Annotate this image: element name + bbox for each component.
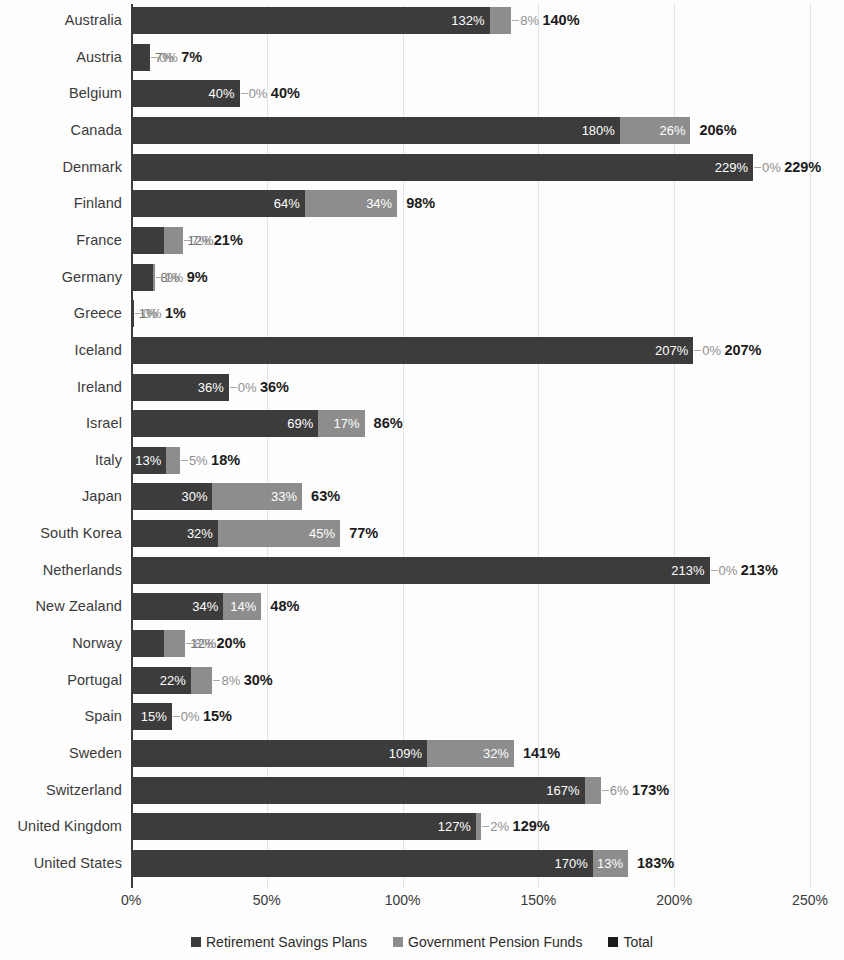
bar-segment-retirement-savings-plans[interactable]: 36%	[131, 374, 229, 401]
category-label: Japan	[0, 483, 122, 510]
label-leader-line	[151, 57, 158, 58]
bar-segment-retirement-savings-plans[interactable]: 213%	[131, 557, 710, 584]
bar-row: Spain15%0%15%	[0, 703, 844, 730]
bar-track: 8%1%9%	[131, 264, 155, 291]
segment-value-government-pension-funds: 32%	[483, 740, 509, 767]
bar-segment-retirement-savings-plans[interactable]	[131, 630, 164, 657]
category-label: Sweden	[0, 740, 122, 767]
bar-track: 69%17%86%	[131, 410, 365, 437]
x-axis-tick-label: 200%	[656, 892, 692, 908]
category-label: Portugal	[0, 667, 122, 694]
bar-segment-retirement-savings-plans[interactable]: 132%	[131, 7, 490, 34]
total-value-label: 213%	[741, 557, 778, 584]
bar-segment-retirement-savings-plans[interactable]: 229%	[131, 154, 753, 181]
total-value-label: 86%	[374, 410, 403, 437]
category-label: Ireland	[0, 374, 122, 401]
x-axis-tick-label: 100%	[385, 892, 421, 908]
legend-item[interactable]: Government Pension Funds	[393, 934, 582, 950]
legend-label: Government Pension Funds	[408, 934, 582, 950]
total-value-label: 48%	[270, 593, 299, 620]
category-label: United States	[0, 850, 122, 877]
bar-segment-government-pension-funds[interactable]: 17%	[318, 410, 364, 437]
label-leader-line	[694, 350, 701, 351]
label-leader-line	[184, 240, 191, 241]
bar-segment-government-pension-funds[interactable]	[490, 7, 512, 34]
label-leader-line	[230, 387, 237, 388]
bar-segment-government-pension-funds[interactable]	[164, 630, 186, 657]
category-label: France	[0, 227, 122, 254]
bar-segment-government-pension-funds[interactable]: 34%	[305, 190, 397, 217]
category-label: Finland	[0, 190, 122, 217]
legend-swatch-icon	[393, 937, 403, 947]
bar-segment-retirement-savings-plans[interactable]: 109%	[131, 740, 427, 767]
legend-label: Retirement Savings Plans	[206, 934, 367, 950]
bar-row: Ireland36%0%36%	[0, 374, 844, 401]
bar-segment-government-pension-funds[interactable]	[164, 227, 183, 254]
category-label: Switzerland	[0, 777, 122, 804]
bar-segment-retirement-savings-plans[interactable]: 40%	[131, 80, 240, 107]
bar-segment-government-pension-funds[interactable]: 45%	[218, 520, 340, 547]
segment-value-government-pension-funds: 0%	[238, 374, 257, 401]
total-value-label: 9%	[187, 264, 208, 291]
bar-segment-government-pension-funds[interactable]: 32%	[427, 740, 514, 767]
segment-value-government-pension-funds: 1%	[164, 264, 183, 291]
bar-row: Switzerland167%6%173%	[0, 777, 844, 804]
bar-track: 22%8%30%	[131, 667, 212, 694]
legend-item[interactable]: Retirement Savings Plans	[191, 934, 367, 950]
bar-track: 12%8%20%	[131, 630, 185, 657]
bar-segment-retirement-savings-plans[interactable]: 30%	[131, 483, 212, 510]
bar-segment-retirement-savings-plans[interactable]: 32%	[131, 520, 218, 547]
bar-segment-retirement-savings-plans[interactable]	[131, 300, 134, 327]
total-value-label: 129%	[513, 813, 550, 840]
segment-value-government-pension-funds: 0%	[159, 44, 178, 71]
bar-track: 180%26%206%	[131, 117, 690, 144]
category-label: New Zealand	[0, 593, 122, 620]
bar-segment-retirement-savings-plans[interactable]: 180%	[131, 117, 620, 144]
segment-value-government-pension-funds: 6%	[610, 777, 629, 804]
bar-segment-government-pension-funds[interactable]: 33%	[212, 483, 302, 510]
bar-segment-retirement-savings-plans[interactable]: 69%	[131, 410, 318, 437]
label-leader-line	[241, 93, 248, 94]
label-leader-line	[711, 570, 718, 571]
bar-segment-government-pension-funds[interactable]: 14%	[223, 593, 261, 620]
category-label: Denmark	[0, 154, 122, 181]
bar-segment-retirement-savings-plans[interactable]: 34%	[131, 593, 223, 620]
segment-value-government-pension-funds: 26%	[659, 117, 685, 144]
x-axis-tick-label: 50%	[253, 892, 281, 908]
bar-segment-government-pension-funds[interactable]	[476, 813, 481, 840]
bar-row: Germany8%1%9%	[0, 264, 844, 291]
bar-segment-government-pension-funds[interactable]: 13%	[593, 850, 628, 877]
segment-value-retirement-savings-plans: 229%	[715, 154, 748, 181]
bar-segment-retirement-savings-plans[interactable]	[131, 264, 153, 291]
bar-segment-government-pension-funds[interactable]	[153, 264, 156, 291]
category-label: Israel	[0, 410, 122, 437]
total-value-label: 140%	[542, 7, 579, 34]
bar-row: Australia132%8%140%	[0, 7, 844, 34]
bar-segment-retirement-savings-plans[interactable]: 13%	[131, 447, 166, 474]
bar-segment-retirement-savings-plans[interactable]: 64%	[131, 190, 305, 217]
total-value-label: 36%	[260, 374, 289, 401]
bar-segment-retirement-savings-plans[interactable]: 15%	[131, 703, 172, 730]
bar-segment-retirement-savings-plans[interactable]: 207%	[131, 337, 693, 364]
bar-segment-retirement-savings-plans[interactable]: 22%	[131, 667, 191, 694]
bar-segment-retirement-savings-plans[interactable]	[131, 44, 150, 71]
legend-item[interactable]: Total	[608, 934, 653, 950]
bar-row: Denmark229%0%229%	[0, 154, 844, 181]
bar-segment-retirement-savings-plans[interactable]: 167%	[131, 777, 585, 804]
bar-row: Sweden109%32%141%	[0, 740, 844, 767]
bar-segment-retirement-savings-plans[interactable]: 127%	[131, 813, 476, 840]
bar-segment-government-pension-funds[interactable]: 26%	[620, 117, 691, 144]
total-value-label: 141%	[523, 740, 560, 767]
segment-value-retirement-savings-plans: 64%	[274, 190, 300, 217]
bar-segment-retirement-savings-plans[interactable]	[131, 227, 164, 254]
total-value-label: 20%	[217, 630, 246, 657]
bar-row: France12%7%21%	[0, 227, 844, 254]
bar-segment-government-pension-funds[interactable]	[166, 447, 180, 474]
label-leader-line	[602, 790, 609, 791]
segment-value-retirement-savings-plans: 30%	[181, 483, 207, 510]
bar-track: 109%32%141%	[131, 740, 514, 767]
bar-segment-retirement-savings-plans[interactable]: 170%	[131, 850, 593, 877]
bar-segment-government-pension-funds[interactable]	[585, 777, 601, 804]
bar-row: United Kingdom127%2%129%	[0, 813, 844, 840]
bar-segment-government-pension-funds[interactable]	[191, 667, 213, 694]
